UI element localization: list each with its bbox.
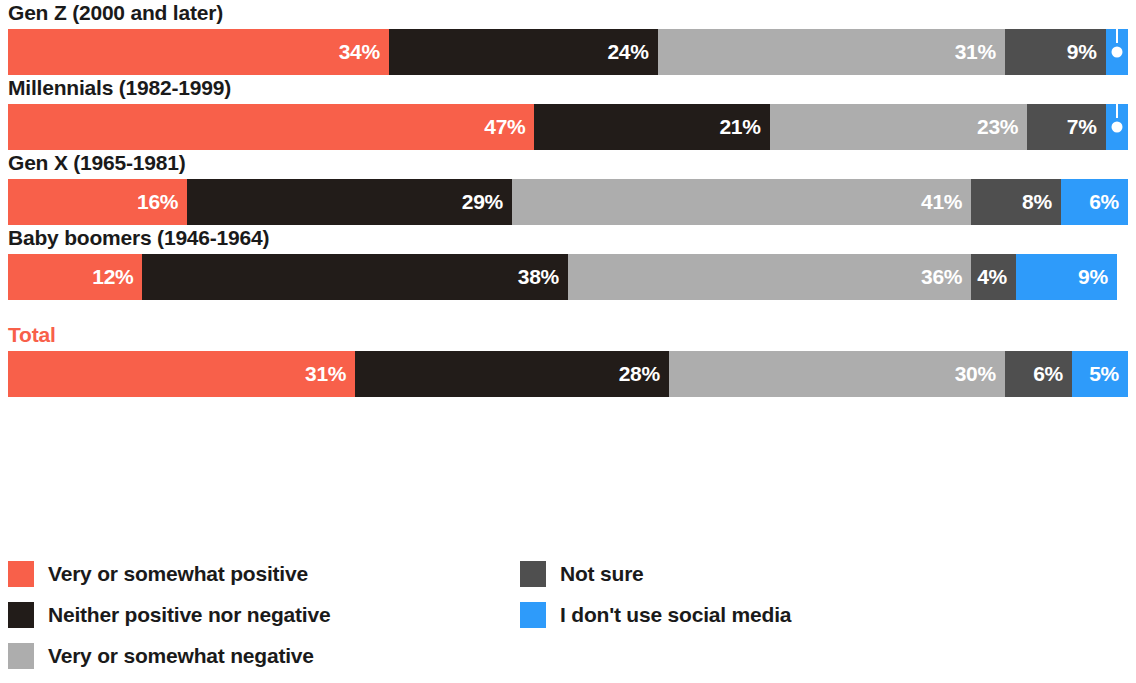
- segment-value-label: 9%: [1067, 40, 1106, 64]
- segment-value-label: 31%: [955, 40, 1005, 64]
- bar-segment-positive[interactable]: 34%: [8, 29, 389, 75]
- bar-group-label: Millennials (1982-1999): [8, 75, 1128, 101]
- segment-value-label: 8%: [1022, 190, 1061, 214]
- bar-segment-no_social[interactable]: 5%: [1072, 351, 1128, 397]
- bar-group-label: Total: [8, 322, 1128, 348]
- stacked-bar: 47%21%23%7%2%: [8, 104, 1128, 150]
- segment-value-label: 7%: [1067, 115, 1106, 139]
- bar-segment-not_sure[interactable]: 6%: [1005, 351, 1072, 397]
- bar-group-gen-z: Gen Z (2000 and later)34%24%31%9%2%: [8, 0, 1128, 75]
- segment-value-label: 38%: [518, 265, 568, 289]
- chart-rows: Gen Z (2000 and later)34%24%31%9%2%Mille…: [8, 0, 1128, 397]
- segment-value-label: 6%: [1033, 362, 1072, 386]
- bar-segment-positive[interactable]: 47%: [8, 104, 534, 150]
- legend-label: Very or somewhat positive: [48, 562, 308, 586]
- segment-value-label: 47%: [484, 115, 534, 139]
- chart-legend: Very or somewhat positiveNeither positiv…: [8, 553, 1128, 676]
- bar-segment-no_social[interactable]: 6%: [1061, 179, 1128, 225]
- legend-item-negative[interactable]: Very or somewhat negative: [8, 635, 520, 676]
- stacked-bar: 16%29%41%8%6%: [8, 179, 1128, 225]
- segment-value-label: 9%: [1078, 265, 1117, 289]
- bar-group-millennials: Millennials (1982-1999)47%21%23%7%2%: [8, 75, 1128, 150]
- bar-segment-positive[interactable]: 12%: [8, 254, 142, 300]
- segment-value-label: 34%: [339, 40, 389, 64]
- segment-value-label: 12%: [92, 265, 142, 289]
- bar-segment-not_sure[interactable]: 9%: [1005, 29, 1106, 75]
- legend-label: I don't use social media: [560, 603, 791, 627]
- legend-column-left: Very or somewhat positiveNeither positiv…: [8, 553, 520, 676]
- bar-segment-neutral[interactable]: 29%: [187, 179, 512, 225]
- bar-segment-neutral[interactable]: 21%: [534, 104, 769, 150]
- bar-segment-no_social[interactable]: 9%: [1016, 254, 1117, 300]
- bar-segment-negative[interactable]: 36%: [568, 254, 971, 300]
- bar-segment-positive[interactable]: 16%: [8, 179, 187, 225]
- callout-stem: [1116, 104, 1118, 118]
- bar-segment-neutral[interactable]: 28%: [355, 351, 669, 397]
- bar-group-gen-x: Gen X (1965-1981)16%29%41%8%6%: [8, 150, 1128, 225]
- segment-value-label: 36%: [921, 265, 971, 289]
- bar-segment-not_sure[interactable]: 7%: [1027, 104, 1105, 150]
- bar-group-total: Total31%28%30%6%5%: [8, 322, 1128, 397]
- segment-value-label: 6%: [1089, 190, 1128, 214]
- bar-group-label: Gen X (1965-1981): [8, 150, 1128, 176]
- segment-value-label: 21%: [719, 115, 769, 139]
- segment-value-label: 31%: [305, 362, 355, 386]
- legend-swatch-negative: [8, 643, 34, 669]
- legend-swatch-neutral: [8, 602, 34, 628]
- callout-stem: [1116, 29, 1118, 43]
- bar-segment-neutral[interactable]: 38%: [142, 254, 568, 300]
- legend-column-right: Not sureI don't use social media: [520, 553, 1060, 676]
- stacked-bar: 12%38%36%4%9%: [8, 254, 1128, 300]
- legend-swatch-positive: [8, 561, 34, 587]
- bar-group-label: Baby boomers (1946-1964): [8, 225, 1128, 251]
- bar-segment-negative[interactable]: 31%: [658, 29, 1005, 75]
- bar-segment-negative[interactable]: 30%: [669, 351, 1005, 397]
- bar-segment-positive[interactable]: 31%: [8, 351, 355, 397]
- stacked-bar-chart: Gen Z (2000 and later)34%24%31%9%2%Mille…: [0, 0, 1136, 683]
- legend-label: Not sure: [560, 562, 644, 586]
- legend-label: Neither positive nor negative: [48, 603, 330, 627]
- bar-group-label: Gen Z (2000 and later): [8, 0, 1128, 26]
- segment-value-label: 5%: [1089, 362, 1128, 386]
- callout-dot: [1111, 47, 1122, 58]
- segment-value-label: 29%: [462, 190, 512, 214]
- segment-value-label: 23%: [977, 115, 1027, 139]
- bar-group-baby-boomers: Baby boomers (1946-1964)12%38%36%4%9%: [8, 225, 1128, 300]
- segment-value-label: 28%: [619, 362, 669, 386]
- legend-swatch-not_sure: [520, 561, 546, 587]
- segment-value-label: 16%: [137, 190, 187, 214]
- stacked-bar: 34%24%31%9%2%: [8, 29, 1128, 75]
- bar-segment-no_social[interactable]: 2%: [1106, 29, 1128, 75]
- legend-item-positive[interactable]: Very or somewhat positive: [8, 553, 520, 594]
- bar-segment-no_social[interactable]: 2%: [1106, 104, 1128, 150]
- bar-segment-not_sure[interactable]: 8%: [971, 179, 1061, 225]
- bar-segment-neutral[interactable]: 24%: [389, 29, 658, 75]
- segment-value-label: 24%: [607, 40, 657, 64]
- callout-dot: [1111, 122, 1122, 133]
- legend-label: Very or somewhat negative: [48, 644, 314, 668]
- segment-value-label: 4%: [977, 265, 1016, 289]
- segment-value-label: 30%: [955, 362, 1005, 386]
- bar-segment-negative[interactable]: 41%: [512, 179, 971, 225]
- legend-item-not_sure[interactable]: Not sure: [520, 553, 1060, 594]
- stacked-bar: 31%28%30%6%5%: [8, 351, 1128, 397]
- bar-segment-not_sure[interactable]: 4%: [971, 254, 1016, 300]
- segment-value-label: 41%: [921, 190, 971, 214]
- legend-swatch-no_social: [520, 602, 546, 628]
- legend-item-no_social[interactable]: I don't use social media: [520, 594, 1060, 635]
- legend-item-neutral[interactable]: Neither positive nor negative: [8, 594, 520, 635]
- bar-segment-negative[interactable]: 23%: [770, 104, 1028, 150]
